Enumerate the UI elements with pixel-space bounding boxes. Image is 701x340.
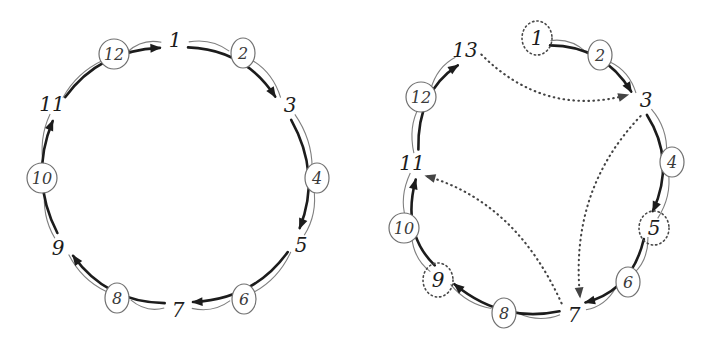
edge-label-text: 10 xyxy=(394,219,414,238)
edge-label-text: 10 xyxy=(32,169,52,188)
vertex-7[interactable]: 7 xyxy=(172,298,185,322)
figure-canvas: 24681012135791124681012135791113 xyxy=(0,0,701,340)
dotted-arrowhead-7 xyxy=(575,287,584,298)
solid-arrowhead-7 xyxy=(192,297,203,306)
panel-left: 246810121357911 xyxy=(27,28,329,322)
vertex-label: 7 xyxy=(172,298,185,322)
edge-label-10[interactable]: 10 xyxy=(389,213,419,243)
edge-label-text: 4 xyxy=(666,153,677,172)
ring-arc xyxy=(431,57,456,89)
vertex-label: 7 xyxy=(568,303,581,327)
edge-label-6[interactable]: 6 xyxy=(616,267,640,297)
solid-arrows-left xyxy=(42,44,309,306)
ring-arc xyxy=(651,109,666,153)
vertex-3[interactable]: 3 xyxy=(640,88,653,112)
vertex-5[interactable]: 5 xyxy=(639,211,669,245)
vertex-label: 13 xyxy=(452,38,477,62)
edge-label-text: 2 xyxy=(237,44,248,63)
edge-label-2[interactable]: 2 xyxy=(588,40,612,70)
vertex-1[interactable]: 1 xyxy=(522,21,552,55)
edge-label-8[interactable]: 8 xyxy=(105,283,129,313)
vertex-label: 1 xyxy=(531,26,544,50)
edge-label-text: 2 xyxy=(594,46,605,65)
vertex-label: 11 xyxy=(399,151,424,175)
edge-label-6[interactable]: 6 xyxy=(232,284,256,314)
dotted-arrowhead-3 xyxy=(617,93,629,101)
vertex-label: 9 xyxy=(52,236,65,260)
dotted-arrowhead-11 xyxy=(424,174,436,182)
vertex-5[interactable]: 5 xyxy=(295,233,308,257)
vertex-13[interactable]: 13 xyxy=(452,38,477,62)
solid-arrowhead-11 xyxy=(409,178,418,190)
ring-arc xyxy=(295,114,312,168)
edge-label-text: 12 xyxy=(104,45,124,64)
vertex-9[interactable]: 9 xyxy=(423,263,453,297)
solid-arrowhead-1 xyxy=(150,44,161,53)
edge-label-text: 12 xyxy=(411,88,431,107)
edge-label-8[interactable]: 8 xyxy=(492,298,516,328)
ring-arc xyxy=(254,252,291,292)
vertex-1[interactable]: 1 xyxy=(169,28,182,52)
diagram-svg: 24681012135791124681012135791113 xyxy=(0,0,701,340)
solid-arrowhead-5 xyxy=(299,218,307,230)
edge-label-12[interactable]: 12 xyxy=(99,39,129,69)
ring-arc xyxy=(610,62,636,93)
ring-arc xyxy=(412,236,431,271)
edge-label-4[interactable]: 4 xyxy=(660,147,684,177)
vertex-label: 1 xyxy=(169,28,182,52)
edge-label-10[interactable]: 10 xyxy=(27,163,57,193)
vertex-label: 9 xyxy=(432,268,445,292)
vertex-label: 3 xyxy=(640,88,653,112)
vertex-11[interactable]: 11 xyxy=(399,151,424,175)
edge-label-text: 4 xyxy=(311,169,322,188)
vertex-label: 3 xyxy=(284,93,297,117)
panel-right: 24681012135791113 xyxy=(389,21,684,328)
vertex-3[interactable]: 3 xyxy=(284,93,297,117)
vertex-label: 5 xyxy=(295,233,308,257)
ring-arc xyxy=(634,237,648,273)
vertex-11[interactable]: 11 xyxy=(39,92,64,116)
vertex-9[interactable]: 9 xyxy=(52,236,65,260)
edge-label-text: 8 xyxy=(499,304,509,323)
vertex-label: 5 xyxy=(648,216,661,240)
dotted-arrow-7-to-11 xyxy=(426,176,562,303)
solid-arrowhead-7 xyxy=(584,296,596,305)
edge-label-text: 6 xyxy=(239,290,249,309)
edge-label-text: 6 xyxy=(623,273,633,292)
ring-arc xyxy=(252,60,280,97)
vertex-7[interactable]: 7 xyxy=(568,303,581,327)
solid-arrowhead-11 xyxy=(45,120,53,132)
ring-arc xyxy=(403,173,410,218)
edge-label-4[interactable]: 4 xyxy=(305,163,329,193)
vertex-label: 11 xyxy=(39,92,64,116)
edge-label-text: 8 xyxy=(112,289,122,308)
edge-label-12[interactable]: 12 xyxy=(406,82,436,112)
dotted-arrows-right xyxy=(424,55,640,304)
edge-label-2[interactable]: 2 xyxy=(231,38,255,68)
